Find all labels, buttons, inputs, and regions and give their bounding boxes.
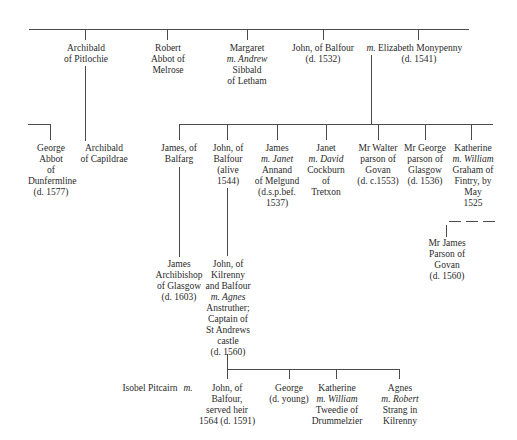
connector: [179, 124, 180, 140]
person-john-balfour-1544: John, of Balfour (alive 1544): [208, 143, 248, 187]
marriage-mark: m.: [182, 383, 194, 394]
name: Elizabeth Monypenny: [378, 43, 460, 54]
detail: Archibishop: [152, 270, 206, 281]
connector: [179, 167, 180, 257]
name: Isobel Pitcairn: [118, 383, 182, 394]
connector: [50, 124, 51, 140]
detail: Drummelzier: [308, 416, 366, 427]
person-george-young: George (d. young): [264, 383, 314, 405]
connector: [425, 124, 426, 140]
dates: (d. young): [264, 394, 314, 405]
detail: of Melgund: [253, 176, 301, 187]
detail: castle: [200, 336, 256, 347]
detail: Anstruther;: [200, 303, 256, 314]
detail: and Balfour: [200, 281, 256, 292]
gen4-sibling-line: [227, 369, 400, 370]
dates: (d. 1560): [422, 271, 472, 282]
connector: [446, 225, 447, 237]
dates: (d. 1532): [290, 54, 356, 65]
dates: 1544): [208, 176, 248, 187]
person-katherine-graham: Katherine m. William Graham of Fintry, b…: [450, 143, 496, 209]
detail: May: [450, 187, 496, 198]
dashed-line: [483, 221, 495, 222]
connector: [247, 29, 248, 40]
detail: served heir: [194, 405, 260, 416]
detail: Melrose: [140, 65, 196, 76]
detail: Balfarg: [158, 154, 200, 165]
person-margaret: Margaret m. Andrew Sibbald of Letham: [215, 43, 279, 87]
connector: [85, 66, 86, 141]
name: James: [152, 259, 206, 270]
spouse: m. Robert: [374, 394, 426, 405]
connector: [371, 55, 372, 125]
dates: (d. 1560): [200, 347, 256, 358]
top-sibling-line-2: [169, 29, 469, 30]
dates: (alive: [208, 165, 248, 176]
marriage-symbol: m.: [364, 43, 378, 54]
dates: (d. c.1553): [352, 176, 404, 187]
name: Mr James: [422, 238, 472, 249]
detail: Govan: [422, 260, 472, 271]
person-john-balfour-1532: John, of Balfour (d. 1532): [290, 43, 356, 65]
name: George: [264, 383, 314, 394]
detail: St Andrews: [200, 325, 256, 336]
detail: Kilrenny: [374, 416, 426, 427]
dates: (d. 1536): [402, 176, 448, 187]
name: John, of: [208, 143, 248, 154]
person-agnes-strang: Agnes m. Robert Strang in Kilrenny: [374, 383, 426, 427]
detail: Balfour,: [194, 394, 260, 405]
person-james-balfarg: James, of Balfarg: [158, 143, 200, 165]
detail: Abbot of: [140, 54, 196, 65]
name: Janet: [304, 143, 348, 154]
name: George: [28, 143, 74, 154]
spouse: m. David: [304, 154, 348, 165]
person-archibald-pitlochie: Archibald of Pitlochie: [55, 43, 117, 65]
connector: [336, 369, 337, 379]
spouse: m. Janet: [253, 154, 301, 165]
name: John, of Balfour: [290, 43, 356, 54]
person-isobel-pitcairn: Isobel Pitcairn: [118, 383, 182, 394]
detail: of Capildrae: [76, 154, 132, 165]
spouse: m. Agnes: [200, 292, 256, 303]
connector: [399, 369, 400, 379]
detail: Parson of: [422, 249, 472, 260]
name: Robert: [140, 43, 196, 54]
detail: Abbot: [28, 154, 74, 165]
detail: of Glasgow: [152, 281, 206, 292]
person-john-kilrenny: John, of Kilrenny and Balfour m. Agnes A…: [200, 259, 256, 358]
detail: parson of: [402, 154, 448, 165]
name: James: [253, 143, 301, 154]
detail: of Pitlochie: [55, 54, 117, 65]
dates: 1537): [253, 198, 301, 209]
connector: [227, 124, 228, 140]
person-george-glasgow: Mr George parson of Glasgow (d. 1536): [402, 143, 448, 187]
person-john-served-heir: John, of Balfour, served heir 1564 (d. 1…: [194, 383, 260, 427]
name: Archibald: [55, 43, 117, 54]
person-james-parson-govan: Mr James Parson of Govan (d. 1560): [422, 238, 472, 282]
name: James, of: [158, 143, 200, 154]
name: Katherine: [308, 383, 366, 394]
connector: [85, 29, 86, 40]
name: John, of: [194, 383, 260, 394]
dates: 1564 (d. 1591): [194, 416, 260, 427]
name: Archibald: [76, 143, 132, 154]
connector: [227, 188, 228, 256]
dates: 1525: [450, 198, 496, 209]
detail: Fintry, by: [450, 176, 496, 187]
marriage-symbol: m.: [182, 383, 194, 394]
detail: parson of: [352, 154, 404, 165]
dates: (d. 1603): [152, 292, 206, 303]
connector: [167, 29, 168, 40]
detail: Sibbald: [215, 65, 279, 76]
person-janet-cockburn: Janet m. David Cockburn of Tretxon: [304, 143, 348, 198]
detail: of Letham: [215, 76, 279, 87]
person-james-annand: James m. Janet Annand of Melgund (d.s.p.…: [253, 143, 301, 209]
person-katherine-tweedie: Katherine m. William Tweedie of Drummelz…: [308, 383, 366, 427]
person-elizabeth-monypenny: Elizabeth Monypenny (d. 1541): [378, 43, 460, 65]
connector: [418, 29, 419, 40]
detail: Strang in: [374, 405, 426, 416]
name: John, of: [200, 259, 256, 270]
spouse: m. Andrew: [215, 54, 279, 65]
top-sibling-line: [29, 29, 169, 30]
dashed-line: [466, 221, 478, 222]
